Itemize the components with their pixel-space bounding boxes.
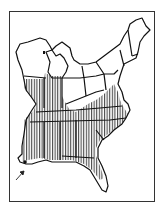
location-dot <box>23 160 27 164</box>
range-map <box>0 0 162 209</box>
range-area <box>22 73 128 180</box>
location-mark <box>43 51 45 54</box>
map-frame <box>10 12 155 202</box>
location-arrow-icon <box>16 171 24 180</box>
